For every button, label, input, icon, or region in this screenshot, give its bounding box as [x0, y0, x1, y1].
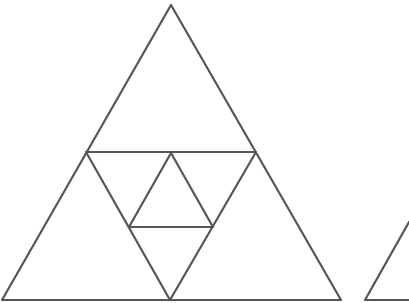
triangle-diagram: [0, 0, 409, 303]
inner-triangle: [129, 153, 213, 227]
partial-right-triangle: [365, 222, 409, 300]
triangle-group: [2, 5, 409, 300]
diagram-canvas: [0, 0, 409, 303]
